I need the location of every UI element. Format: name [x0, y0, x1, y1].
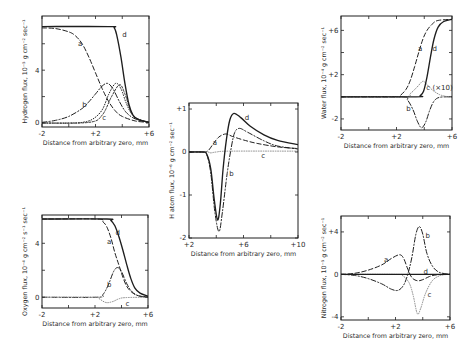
- curve-label-d: d: [122, 31, 126, 39]
- x-axis-label: Distance from arbitrary zero, mm: [191, 250, 296, 258]
- x-tick-label: -2: [338, 133, 345, 141]
- x-axis-label: Distance from arbitrary zero, mm: [344, 142, 449, 150]
- curve-label-d: d: [245, 114, 249, 122]
- curve-label-b: b: [425, 232, 430, 240]
- x-tick-label: +6: [238, 241, 249, 249]
- y-tick-label: +4: [328, 228, 339, 236]
- curve-label-b: b: [229, 170, 234, 178]
- x-tick-label: +6: [143, 311, 154, 319]
- curve-label-b: b: [107, 281, 112, 289]
- curve-label-d: d: [433, 45, 437, 53]
- y-tick-label: 4: [35, 67, 40, 75]
- curve-label-b: b: [82, 101, 87, 109]
- x-tick-label: +6: [447, 133, 458, 141]
- y-tick-label: -4: [332, 313, 340, 321]
- figure: -2+2+604Distance from arbitrary zero, mm…: [0, 0, 476, 355]
- x-tick-label: +2: [90, 311, 100, 319]
- y-axis-label: Nitrogen flux, 10⁻⁵ g cm⁻² sec⁻¹: [320, 217, 328, 318]
- curve-label-d: d: [423, 268, 427, 276]
- y-axis-label: Hydrogen flux, 10⁻⁵ g cm⁻² sec⁻¹: [21, 19, 29, 124]
- x-tick-label: +2: [391, 133, 401, 141]
- x-tick-label: +2: [90, 130, 100, 138]
- x-tick-label: +6: [144, 130, 155, 138]
- y-tick-label: -1: [180, 191, 187, 199]
- curve-label-c: c: [102, 114, 106, 122]
- curve-label-a: a: [78, 40, 82, 48]
- y-tick-label: +6: [328, 27, 339, 35]
- curve-label-c: c: [428, 291, 432, 299]
- x-tick-label: -2: [338, 323, 345, 331]
- curve-label-a: a: [418, 45, 422, 53]
- x-tick-label: +6: [445, 323, 456, 331]
- curve-label-a: a: [213, 139, 217, 147]
- figure-background: [0, 0, 476, 355]
- y-tick-label: 0: [35, 294, 39, 302]
- x-axis-label: Distance from arbitrary zero, mm: [43, 139, 148, 147]
- curve-label-a: a: [107, 238, 111, 246]
- y-tick-label: 0: [35, 119, 39, 127]
- curve-label-c: c: [261, 152, 265, 160]
- y-tick-label: +1: [176, 105, 186, 113]
- y-tick-label: 0: [334, 271, 338, 279]
- y-axis-label: H atom flux, 10⁻⁶ g cm⁻² sec⁻¹: [168, 122, 176, 219]
- y-tick-label: 4: [35, 240, 40, 248]
- y-tick-label: 0: [182, 148, 186, 156]
- x-tick-label: -2: [39, 130, 46, 138]
- y-tick-label: -2: [332, 115, 339, 123]
- x-axis-label: Distance from arbitrary zero, mm: [343, 332, 448, 340]
- curve-label-a: a: [384, 256, 388, 264]
- y-tick-label: +2: [328, 71, 338, 79]
- x-tick-label: +2: [390, 323, 400, 331]
- y-tick-label: -2: [180, 234, 187, 242]
- y-axis-label: Water flux, 10⁻⁴ g cm⁻² sec⁻¹: [320, 26, 328, 119]
- curve-label-d: d: [116, 229, 120, 237]
- curve-label-c: c (×10): [426, 84, 453, 92]
- x-tick-label: -2: [39, 311, 46, 319]
- x-axis-label: Distance from arbitrary zero, mm: [42, 320, 147, 328]
- curve-label-b: b: [406, 105, 411, 113]
- curve-label-c: c: [125, 300, 129, 308]
- y-axis-label: Oxygen flux, 10⁻⁴ g cm⁻² s⁻¹ sec⁻¹: [21, 207, 29, 316]
- x-tick-label: +10: [291, 241, 306, 249]
